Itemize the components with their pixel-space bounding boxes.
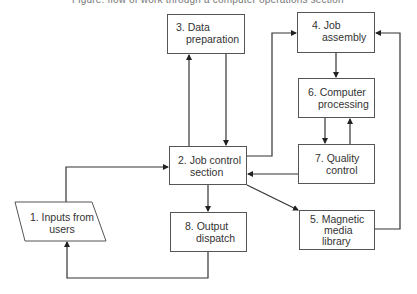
node-job-control-section: 2. Job control section xyxy=(169,146,247,185)
node-job-assembly: 4. Job assembly xyxy=(297,12,375,53)
node-label-line1: 4. Job xyxy=(312,19,341,31)
edge-jobcontrol-to-media xyxy=(247,185,298,210)
node-label-line3: library xyxy=(322,235,351,247)
edge-inputs-to-jobcontrol xyxy=(66,167,168,202)
node-label-line2: processing xyxy=(318,98,369,110)
node-inputs-from-users: 1. Inputs from users xyxy=(22,211,102,235)
node-label-line2: preparation xyxy=(186,33,239,45)
node-quality-control: 7. Quality control xyxy=(298,144,375,184)
node-label-line1: 2. Job control xyxy=(178,154,241,166)
node-label-line2: dispatch xyxy=(196,232,235,244)
node-label-line2: users xyxy=(22,223,102,235)
node-label-line1: 1. Inputs from xyxy=(22,211,102,223)
edge-jobcontrol-to-jobassembly xyxy=(247,33,296,156)
node-label-line2: control xyxy=(326,164,358,176)
edge-media-to-jobassembly xyxy=(375,33,400,229)
node-magnetic-media-library: 5. Magnetic media library xyxy=(299,210,375,250)
node-label-line2: assembly xyxy=(322,31,366,43)
node-computer-processing: 6. Computer processing xyxy=(298,78,375,118)
node-label-line2: section xyxy=(190,166,223,178)
node-label-line1: 7. Quality xyxy=(315,152,359,164)
node-label-line1: 8. Output xyxy=(185,220,228,232)
node-output-dispatch: 8. Output dispatch xyxy=(170,212,247,252)
node-label-line1: 3. Data xyxy=(176,21,210,33)
node-data-preparation: 3. Data preparation xyxy=(167,14,245,54)
node-label-line1: 6. Computer xyxy=(308,86,366,98)
